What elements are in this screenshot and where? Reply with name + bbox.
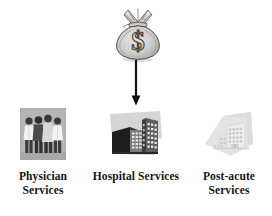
physician-group-photo: [2, 108, 84, 160]
service-label-physician: Physician Services: [2, 169, 84, 197]
service-label-post-acute: Post-acute Services: [188, 169, 270, 197]
money-bag-icon: $: [112, 6, 164, 64]
dollar-sign-glyph: $: [131, 26, 145, 56]
svg-text:$: $: [131, 26, 145, 56]
caption-line: Hospital Services: [90, 169, 182, 183]
caption-line: Post-acute: [188, 169, 270, 183]
payment-flow-diagram: $: [0, 0, 272, 216]
service-column-hospital: Hospital Services: [90, 108, 182, 183]
down-arrow-icon: [128, 60, 144, 106]
service-column-post-acute: Post-acute Services: [188, 108, 270, 197]
caption-line: Physician: [2, 169, 84, 183]
hospital-building-photo: [90, 108, 182, 160]
caption-line: Services: [2, 183, 84, 197]
post-acute-facility-photo: [188, 108, 270, 160]
caption-line: Services: [188, 183, 270, 197]
service-label-hospital: Hospital Services: [90, 169, 182, 183]
service-column-physician: Physician Services: [2, 108, 84, 197]
